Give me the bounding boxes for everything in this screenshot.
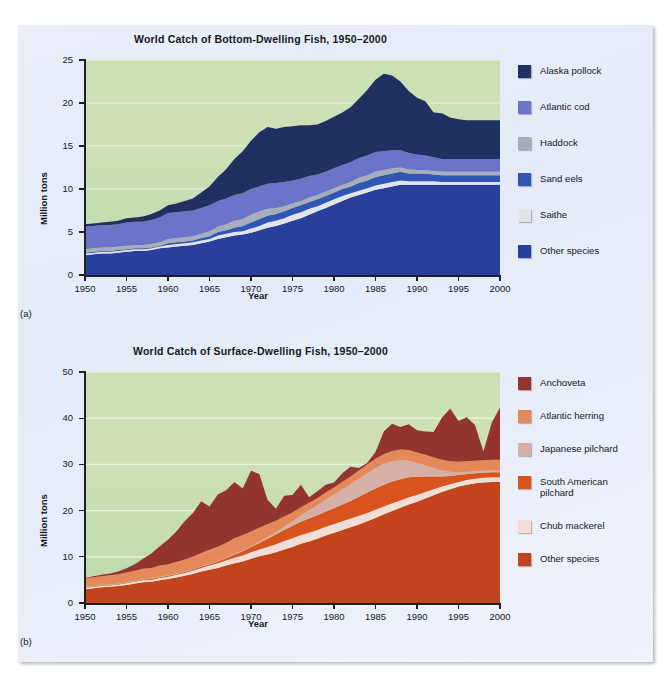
y-tick xyxy=(79,464,84,465)
legend-label: Haddock xyxy=(540,137,578,148)
legend-item[interactable]: South American pilchard xyxy=(518,476,608,499)
legend-label: Chub mackerel xyxy=(540,520,605,531)
legend-label: Other species xyxy=(540,553,599,564)
chart-a-plot-area xyxy=(85,60,500,275)
legend-item[interactable]: Saithe xyxy=(518,209,567,222)
x-tick xyxy=(84,276,85,281)
x-tick xyxy=(458,604,459,609)
legend-item[interactable]: Haddock xyxy=(518,137,578,150)
x-tick xyxy=(458,276,459,281)
x-tick xyxy=(333,604,334,609)
chart-a-y-axis xyxy=(84,59,86,276)
chart-area-series xyxy=(85,60,500,275)
x-tick-label: 1980 xyxy=(314,611,354,622)
x-tick xyxy=(126,276,127,281)
chart-b-ylabel: Million tons xyxy=(38,494,49,547)
chart-a-title: World Catch of Bottom-Dwelling Fish, 195… xyxy=(0,33,578,45)
x-tick-label: 1990 xyxy=(397,611,437,622)
chart-area-series xyxy=(85,372,500,603)
legend-swatch-icon xyxy=(518,173,531,186)
legend-item[interactable]: Anchoveta xyxy=(518,377,585,390)
x-tick xyxy=(167,276,168,281)
y-tick-label: 10 xyxy=(47,551,73,562)
x-tick-label: 2000 xyxy=(480,611,520,622)
legend-item[interactable]: Other species xyxy=(518,245,599,258)
y-tick xyxy=(79,418,84,419)
legend-item[interactable]: Other species xyxy=(518,553,599,566)
x-tick-label: 1955 xyxy=(107,611,147,622)
y-tick xyxy=(79,556,84,557)
legend-label: South American pilchard xyxy=(540,476,608,499)
y-tick-label: 5 xyxy=(47,226,73,237)
x-tick-label: 1980 xyxy=(314,283,354,294)
legend-swatch-icon xyxy=(518,553,531,566)
y-tick-label: 20 xyxy=(47,505,73,516)
legend-swatch-icon xyxy=(518,101,531,114)
legend-swatch-icon xyxy=(518,443,531,456)
x-tick xyxy=(333,276,334,281)
x-tick-label: 1995 xyxy=(439,611,479,622)
x-tick-label: 1965 xyxy=(190,283,230,294)
legend-label: Other species xyxy=(540,245,599,256)
x-tick-label: 1960 xyxy=(148,283,188,294)
legend-swatch-icon xyxy=(518,410,531,423)
x-tick-label: 2000 xyxy=(480,283,520,294)
x-tick-label: 1975 xyxy=(273,611,313,622)
panel-letter-b: (b) xyxy=(20,636,32,647)
y-tick-label: 50 xyxy=(47,366,73,377)
x-tick-label: 1975 xyxy=(273,283,313,294)
y-tick xyxy=(79,602,84,603)
x-tick-label: 1990 xyxy=(397,283,437,294)
chart-a-ylabel: Million tons xyxy=(38,172,49,225)
x-tick xyxy=(209,276,210,281)
x-tick xyxy=(167,604,168,609)
x-tick-label: 1950 xyxy=(65,611,105,622)
y-tick-label: 20 xyxy=(47,97,73,108)
legend-item[interactable]: Atlantic cod xyxy=(518,101,590,114)
y-tick-label: 25 xyxy=(47,54,73,65)
chart-panel-a: World Catch of Bottom-Dwelling Fish, 195… xyxy=(18,25,653,325)
y-tick-label: 10 xyxy=(47,183,73,194)
y-tick-label: 0 xyxy=(47,269,73,280)
chart-b-y-axis xyxy=(84,371,86,604)
figure-page: World Catch of Bottom-Dwelling Fish, 195… xyxy=(0,0,671,683)
x-tick-label: 1955 xyxy=(107,283,147,294)
y-tick xyxy=(79,510,84,511)
legend-item[interactable]: Chub mackerel xyxy=(518,520,605,533)
y-tick xyxy=(79,59,84,60)
x-tick-label: 1950 xyxy=(65,283,105,294)
x-tick xyxy=(126,604,127,609)
x-tick xyxy=(250,604,251,609)
legend-label: Sand eels xyxy=(540,173,583,184)
y-tick xyxy=(79,102,84,103)
legend-item[interactable]: Sand eels xyxy=(518,173,583,186)
legend-item[interactable]: Atlantic herring xyxy=(518,410,604,423)
y-tick xyxy=(79,188,84,189)
x-tick xyxy=(416,604,417,609)
x-tick xyxy=(292,276,293,281)
legend-item[interactable]: Japanese pilchard xyxy=(518,443,618,456)
x-tick-label: 1970 xyxy=(231,611,271,622)
chart-b-plot-area xyxy=(85,372,500,603)
x-tick-label: 1995 xyxy=(439,283,479,294)
y-tick-label: 30 xyxy=(47,458,73,469)
x-tick xyxy=(499,276,500,281)
y-tick xyxy=(79,231,84,232)
x-tick xyxy=(499,604,500,609)
legend-item[interactable]: Alaska pollock xyxy=(518,65,601,78)
x-tick xyxy=(416,276,417,281)
legend-swatch-icon xyxy=(518,377,531,390)
x-tick-label: 1970 xyxy=(231,283,271,294)
legend-swatch-icon xyxy=(518,520,531,533)
x-tick-label: 1985 xyxy=(356,283,396,294)
figure-panel: World Catch of Bottom-Dwelling Fish, 195… xyxy=(18,25,653,662)
legend-swatch-icon xyxy=(518,245,531,258)
legend-swatch-icon xyxy=(518,476,531,489)
x-tick-label: 1960 xyxy=(148,611,188,622)
legend-swatch-icon xyxy=(518,137,531,150)
legend-label: Atlantic herring xyxy=(540,410,604,421)
x-tick xyxy=(84,604,85,609)
x-tick xyxy=(209,604,210,609)
x-tick xyxy=(375,276,376,281)
panel-letter-a: (a) xyxy=(20,308,32,319)
